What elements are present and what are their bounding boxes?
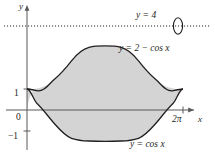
shaded-region	[27, 46, 183, 141]
y-axis-arrowhead	[25, 5, 30, 11]
y-tick-label-1: 1	[14, 89, 19, 99]
y-axis-label: y	[19, 2, 23, 11]
lower-curve-label: y = cos x	[130, 140, 165, 150]
origin-label: 0	[16, 113, 21, 123]
figure-container: y x 1 0 −1 2π y = 4 y = 2 − cos x y = co…	[0, 0, 215, 161]
upper-curve-label: y = 2 − cos x	[119, 44, 170, 54]
x-axis-arrowhead	[188, 108, 194, 113]
y-tick-label-negative-1: −1	[8, 132, 18, 142]
x-tick-label-2pi: 2π	[172, 115, 182, 125]
x-axis-label: x	[198, 115, 202, 124]
axis-of-revolution-label: y = 4	[136, 11, 156, 21]
plot-canvas	[0, 0, 215, 161]
